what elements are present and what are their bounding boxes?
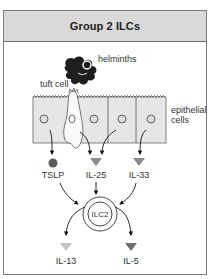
- arrow-il33-to-ilc2: [120, 183, 136, 204]
- tuft-cell-label: tuft cell: [40, 79, 69, 89]
- il33-label: IL-33: [129, 170, 150, 180]
- epithelial-cells-label-1: epithelial: [171, 105, 207, 115]
- il13-label: IL-13: [56, 256, 77, 266]
- il33-triangle-icon: [133, 158, 145, 166]
- il5-triangle-icon: [125, 243, 137, 251]
- tslp-label: TSLP: [42, 170, 65, 180]
- epithelial-cells-label-2: cells: [171, 115, 190, 125]
- arrow-ilc2-to-il5: [115, 207, 131, 235]
- il25-label: IL-25: [86, 170, 107, 180]
- ilc2-pathway-diagram: helminths tuft cell epithelial cells TSL…: [0, 0, 214, 279]
- epithelial-layer: [33, 88, 166, 148]
- helminths-label: helminths: [98, 54, 137, 64]
- tslp-dot-icon: [49, 159, 58, 168]
- arrow-tslp-to-ilc2: [60, 183, 78, 204]
- helminth-icon: [65, 57, 97, 85]
- il13-triangle-icon: [60, 243, 72, 251]
- ilc2-label: ILC2: [92, 210, 109, 219]
- il5-label: IL-5: [123, 256, 139, 266]
- il25-triangle-icon: [90, 158, 102, 166]
- arrow-ilc2-to-il13: [66, 207, 85, 235]
